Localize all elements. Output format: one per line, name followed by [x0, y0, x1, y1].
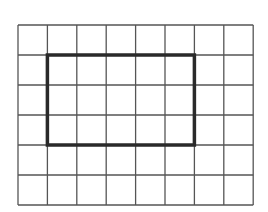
highlighted-rectangle [47, 55, 194, 145]
grid-lines [18, 25, 253, 205]
grid-diagram [0, 0, 268, 212]
